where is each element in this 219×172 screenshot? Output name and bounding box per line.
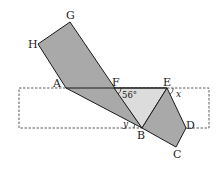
- angle-label-56: 56°: [122, 90, 137, 100]
- strip-upper-flap: [38, 22, 142, 128]
- angle-label-y: y: [122, 119, 129, 129]
- label-E: E: [163, 76, 171, 89]
- angle-arc-B: [134, 124, 135, 128]
- label-F: F: [112, 76, 120, 89]
- label-H: H: [28, 38, 38, 51]
- label-G: G: [66, 9, 75, 22]
- label-A: A: [52, 77, 62, 90]
- label-C: C: [173, 148, 181, 161]
- label-D: D: [186, 119, 195, 132]
- label-B: B: [137, 129, 145, 142]
- angle-label-x: x: [176, 89, 181, 99]
- geometry-diagram: G H A F E D B C 56° x y: [0, 0, 219, 172]
